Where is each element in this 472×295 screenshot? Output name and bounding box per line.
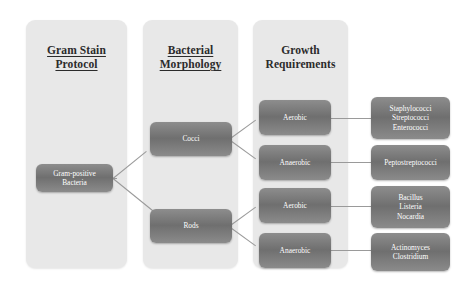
organism-line2: Streptococci xyxy=(392,113,429,122)
column-heading-line2: Morphology xyxy=(160,58,222,70)
column-heading-growth-requirements: Growth Requirements xyxy=(253,43,348,71)
organism-line1: Peptostreptococci xyxy=(381,158,440,167)
node-organisms-aerobic-cocci[interactable]: Staphylococci Streptococci Enterococci xyxy=(371,97,450,139)
connector-aerobic-cocci-to-organisms xyxy=(330,118,372,119)
column-heading-bacterial-morphology: Bacterial Morphology xyxy=(143,43,238,71)
node-label-line2: Bacteria xyxy=(62,178,87,187)
node-growth-anaerobic-cocci[interactable]: Anaerobic xyxy=(259,145,331,180)
organism-line3: Nocardia xyxy=(397,212,424,221)
column-heading-line1: Gram Stain xyxy=(47,44,106,56)
connector-anaerobic-cocci-to-organisms xyxy=(330,162,372,163)
node-label-anaerobic: Anaerobic xyxy=(277,158,314,167)
node-growth-aerobic-cocci[interactable]: Aerobic xyxy=(259,100,331,135)
node-organisms-anaerobic-cocci[interactable]: Peptostreptococci xyxy=(371,145,450,180)
node-organisms-anaerobic-rods[interactable]: Actinomyces Clostridium xyxy=(371,233,450,271)
organism-line1: Bacillus xyxy=(398,193,422,202)
node-label-aerobic: Aerobic xyxy=(280,113,310,122)
flowchart-canvas: Gram Stain Protocol Bacterial Morphology… xyxy=(0,0,472,295)
column-heading-line1: Growth xyxy=(281,44,320,56)
column-heading-line2: Requirements xyxy=(266,58,336,70)
node-cocci[interactable]: Cocci xyxy=(150,122,232,156)
node-rods[interactable]: Rods xyxy=(150,209,232,243)
node-label-aerobic: Aerobic xyxy=(280,201,310,210)
node-organisms-aerobic-rods[interactable]: Bacillus Listeria Nocardia xyxy=(371,186,450,228)
node-growth-aerobic-rods[interactable]: Aerobic xyxy=(259,188,331,223)
organism-line2: Listeria xyxy=(399,202,422,211)
connector-aerobic-rods-to-organisms xyxy=(330,206,372,207)
organism-line1: Actinomyces xyxy=(391,243,430,252)
node-label-line1: Gram-positive xyxy=(53,169,96,178)
organism-line3: Enterococci xyxy=(393,123,428,132)
column-heading-line1: Bacterial xyxy=(168,44,214,56)
node-label-cocci: Cocci xyxy=(179,134,202,143)
node-label-anaerobic: Anaerobic xyxy=(277,246,314,255)
node-gram-positive-bacteria[interactable]: Gram-positive Bacteria xyxy=(36,164,113,192)
organism-line1: Staphylococci xyxy=(390,104,432,113)
node-growth-anaerobic-rods[interactable]: Anaerobic xyxy=(259,233,331,268)
column-heading-gram-stain-protocol: Gram Stain Protocol xyxy=(26,43,127,71)
column-heading-line2: Protocol xyxy=(55,58,97,70)
node-label-rods: Rods xyxy=(180,221,201,230)
organism-line2: Clostridium xyxy=(393,252,428,261)
connector-anaerobic-rods-to-organisms xyxy=(330,250,372,251)
